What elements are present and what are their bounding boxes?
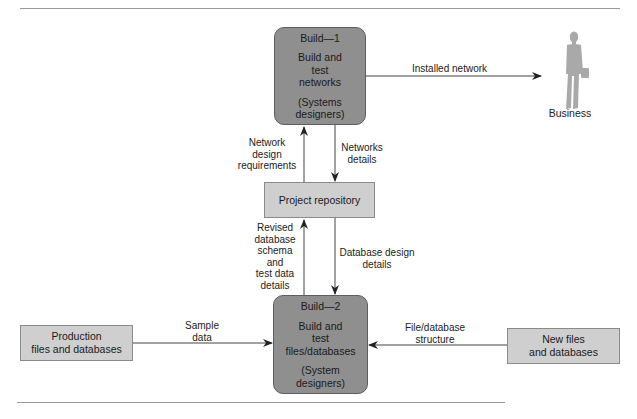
store-label: and databases <box>529 346 598 359</box>
process-actor-line: (Systems <box>298 96 342 109</box>
flow-label-networks-details: Networks details <box>339 142 385 165</box>
flow-label-installed-network: Installed network <box>412 63 487 75</box>
process-build-1: Build—1 Build and test networks (Systems… <box>274 27 366 125</box>
process-action-line: Build and <box>299 320 343 333</box>
process-title: Build—2 <box>301 300 341 313</box>
store-project-repository: Project repository <box>264 182 375 218</box>
flow-label-revised-schema: Revised database schema and test data de… <box>250 222 300 291</box>
businessperson-icon <box>559 30 593 110</box>
flow-label-sample-data: Sample data <box>182 320 222 343</box>
store-label: Production <box>51 330 101 343</box>
process-actor-line: designers) <box>295 108 344 121</box>
flow-label-file-database-structure: File/database structure <box>400 322 470 345</box>
store-label: files and databases <box>31 343 121 356</box>
process-build-2: Build—2 Build and test files/databases (… <box>273 295 368 394</box>
process-actor-line: designers) <box>296 377 345 390</box>
store-new-files: New files and databases <box>507 328 620 364</box>
process-action-line: files/databases <box>285 345 355 358</box>
process-title: Build—1 <box>300 32 340 45</box>
process-actor-line: (System <box>301 364 340 377</box>
flow-label-database-design-details: Database design details <box>338 247 416 270</box>
flow-label-network-design-requirements: Network design requirements <box>236 137 298 172</box>
process-action-line: Build and <box>298 51 342 64</box>
process-action-line: test <box>312 64 329 77</box>
store-label: New files <box>542 333 585 346</box>
process-action-line: test <box>312 332 329 345</box>
external-entity-label: Business <box>545 108 595 120</box>
store-production-files: Production files and databases <box>20 325 133 361</box>
store-label: Project repository <box>279 194 361 207</box>
process-action-line: networks <box>299 76 341 89</box>
